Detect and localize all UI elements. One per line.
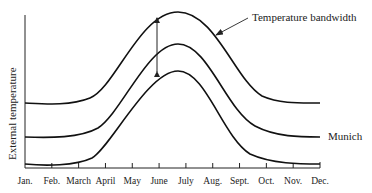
bandwidth-label: Temperature bandwidth [252, 11, 357, 23]
month-label: Jan. [17, 176, 32, 186]
munich-label: Munich [328, 130, 363, 142]
month-label: Feb. [44, 176, 61, 186]
month-label: Dec. [311, 176, 329, 186]
month-label: July [178, 176, 194, 186]
month-label: April [95, 176, 115, 186]
y-axis-label: External temperature [6, 67, 18, 160]
upper-bound-curve [25, 12, 320, 104]
temperature-chart: Temperature bandwidth Munich External te… [0, 0, 372, 193]
month-label: Nov. [284, 176, 302, 186]
month-label: Aug. [203, 176, 222, 186]
month-label: Sept. [230, 176, 249, 186]
munich-curve [25, 44, 320, 137]
x-axis-month-labels: Jan.Feb.MarchAprilMayJuneJulyAug.Sept.Oc… [17, 176, 328, 186]
month-label: March [66, 176, 91, 186]
month-label: Oct. [258, 176, 274, 186]
month-label: May [124, 176, 142, 186]
month-label: June [150, 176, 167, 186]
lower-bound-curve [25, 71, 320, 165]
bandwidth-pointer-arrow [216, 18, 248, 35]
x-axis-ticks [52, 163, 293, 168]
